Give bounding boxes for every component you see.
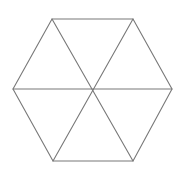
hexagon-diagram <box>0 0 187 169</box>
figure-canvas <box>0 0 187 169</box>
